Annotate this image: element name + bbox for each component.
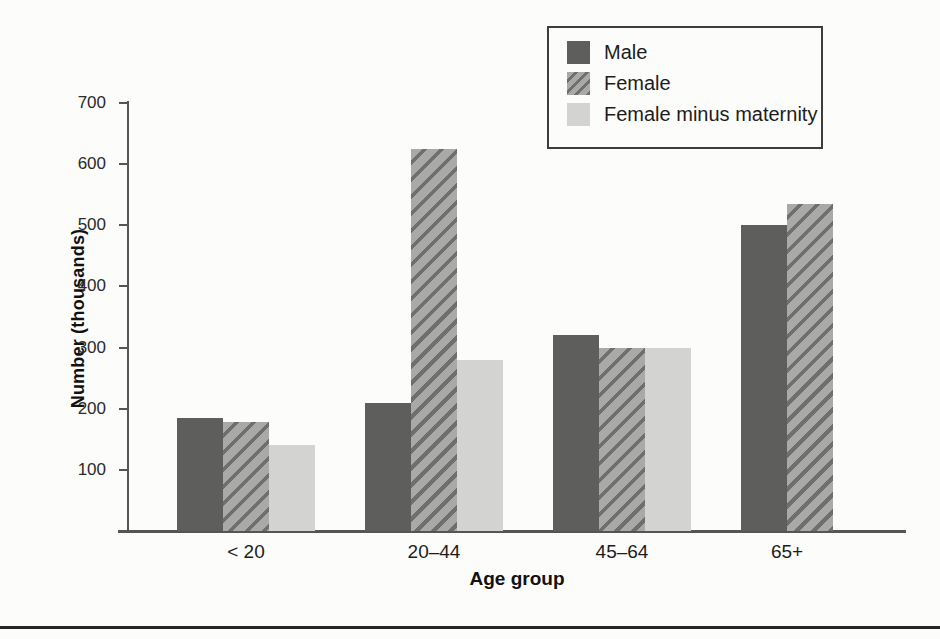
y-tick-label: 500 [40,216,106,234]
bar-female-0 [223,422,269,531]
bar-female-minus-maternity-0 [269,445,315,531]
bar-female-minus-maternity-1 [457,360,503,531]
legend-row-female-minus-maternity: Female minus maternity [567,102,821,127]
y-axis-line [127,101,129,532]
bar-male-1 [365,403,411,531]
x-category-label: 20–44 [374,541,494,563]
bottom-page-divider [0,626,940,629]
x-category-label: 65+ [727,541,847,563]
bar-female-2 [599,348,645,531]
y-tick-label: 400 [40,277,106,295]
legend-swatch-female-minus-maternity [567,103,590,126]
y-tick [119,102,128,104]
y-tick [119,347,128,349]
bar-male-3 [741,225,787,531]
y-tick [119,163,128,165]
x-category-label: < 20 [186,541,306,563]
legend-box: MaleFemaleFemale minus maternity [547,26,823,149]
y-tick [119,285,128,287]
legend-row-female: Female [567,71,821,96]
bar-male-0 [177,418,223,531]
y-tick-label: 600 [40,155,106,173]
legend-label-female-minus-maternity: Female minus maternity [604,103,817,126]
bar-female-1 [411,149,457,531]
legend-swatch-female [567,72,590,95]
legend-label-male: Male [604,41,647,64]
legend-label-female: Female [604,72,671,95]
legend-row-male: Male [567,40,821,65]
y-axis-title: Number (thousands) [68,219,89,419]
bar-chart-figure: Number (thousands) 100200300400500600700… [0,0,940,639]
bar-male-2 [553,335,599,531]
y-tick-label: 200 [40,400,106,418]
y-tick-label: 100 [40,461,106,479]
x-axis-title: Age group [317,568,717,590]
y-tick [119,469,128,471]
legend-swatch-male [567,41,590,64]
y-tick [119,224,128,226]
bar-female-3 [787,204,833,531]
y-tick-label: 700 [40,94,106,112]
x-category-label: 45–64 [562,541,682,563]
y-tick [119,408,128,410]
bar-female-minus-maternity-2 [645,348,691,531]
y-tick-label: 300 [40,339,106,357]
